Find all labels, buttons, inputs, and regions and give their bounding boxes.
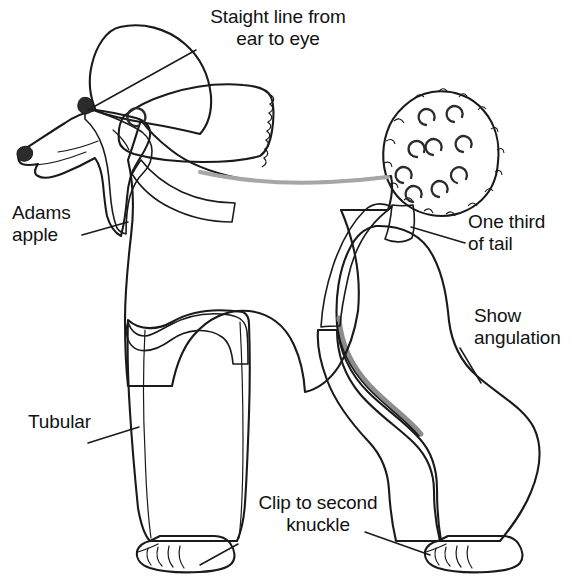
diagram-canvas: .ol { fill: none; stroke: #1a1a1a; strok…	[0, 0, 573, 584]
label-one-third-of-tail: One third of tail	[468, 211, 568, 256]
label-clip-to-second-knuckle: Clip to second knuckle	[248, 492, 388, 537]
label-tubular: Tubular	[28, 411, 133, 433]
eye	[78, 97, 93, 114]
label-show-angulation: Show angulation	[474, 305, 572, 350]
label-straight-line-ear-to-eye: Staight line from ear to eye	[188, 6, 368, 51]
label-adams-apple: Adams apple	[12, 202, 112, 247]
nose	[17, 146, 33, 161]
